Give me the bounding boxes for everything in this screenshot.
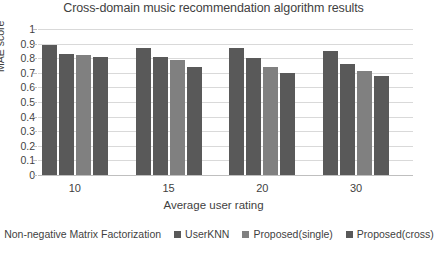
y-axis-tick-mark [33, 117, 37, 118]
y-axis-tick-label: 0.4 [1, 111, 35, 123]
x-axis-tick-label: 30 [326, 182, 386, 194]
bar-group [226, 29, 320, 175]
bar [59, 54, 74, 175]
y-axis-tick-label: 0.8 [1, 52, 35, 64]
bar [246, 58, 261, 175]
legend-item[interactable]: Non-negative Matrix Factorization [0, 228, 161, 240]
y-axis-tick-mark [33, 29, 37, 30]
plot-area [38, 29, 413, 176]
y-axis-tick-label: 0.5 [1, 96, 35, 108]
x-axis-line [38, 175, 413, 176]
bar [42, 45, 57, 175]
bar [340, 64, 355, 175]
bar [76, 55, 91, 175]
y-axis-tick-mark [33, 73, 37, 74]
bar [374, 76, 389, 175]
bar [93, 57, 108, 175]
y-axis-tick-label: 1 [1, 23, 35, 35]
y-axis-tick-label: 0.2 [1, 140, 35, 152]
legend-swatch-icon [242, 231, 249, 238]
x-axis-tick-label: 20 [232, 182, 292, 194]
x-axis-title: Average user rating [0, 199, 427, 211]
legend-item[interactable]: UserKNN [174, 228, 229, 240]
bar [323, 51, 338, 175]
legend-label: Proposed(cross) [357, 228, 434, 240]
y-axis-tick-label: 0.1 [1, 154, 35, 166]
chart-legend: Non-negative Matrix FactorizationUserKNN… [0, 228, 427, 240]
bar-group [38, 29, 132, 175]
y-axis-tick-label: 0.3 [1, 125, 35, 137]
bar [263, 67, 278, 175]
bar [229, 48, 244, 175]
bar [187, 67, 202, 175]
y-axis-tick-mark [33, 44, 37, 45]
bar [153, 57, 168, 175]
y-axis-tick-label: 0 [1, 169, 35, 181]
legend-item[interactable]: Proposed(single) [242, 228, 332, 240]
x-axis-tick-label: 10 [45, 182, 105, 194]
legend-swatch-icon [174, 231, 181, 238]
y-axis-tick-mark [33, 160, 37, 161]
bar-group [319, 29, 413, 175]
y-axis-tick-mark [33, 102, 37, 103]
bar [357, 71, 372, 175]
legend-label: Non-negative Matrix Factorization [4, 228, 161, 240]
bar-group [132, 29, 226, 175]
y-axis-tick-mark [33, 146, 37, 147]
y-axis-tick-label: 0.6 [1, 81, 35, 93]
legend-swatch-icon [346, 231, 353, 238]
y-axis-tick-label: 0.7 [1, 67, 35, 79]
bar [280, 73, 295, 175]
legend-label: Proposed(single) [253, 228, 332, 240]
chart-title: Cross-domain music recommendation algori… [0, 1, 427, 15]
bar [136, 48, 151, 175]
bar [170, 60, 185, 175]
legend-item[interactable]: Proposed(cross) [346, 228, 434, 240]
y-axis-tick-mark [33, 58, 37, 59]
y-axis-tick-mark [33, 175, 37, 176]
y-axis-tick-mark [33, 87, 37, 88]
x-axis-tick-label: 15 [139, 182, 199, 194]
y-axis-tick-label: 0.9 [1, 38, 35, 50]
legend-label: UserKNN [185, 228, 229, 240]
y-axis-tick-mark [33, 131, 37, 132]
